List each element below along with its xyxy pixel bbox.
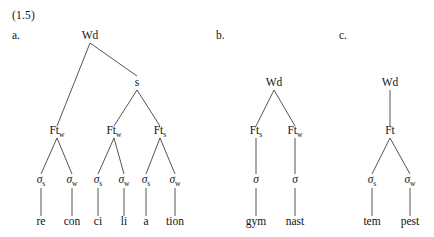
node-leaf: ci	[94, 215, 102, 227]
node-prosodic-word: Wd	[266, 76, 283, 88]
tree-branch	[256, 90, 274, 126]
node-leaf: con	[64, 215, 81, 227]
tree-branch	[57, 43, 90, 126]
node-syllable: σw	[169, 173, 181, 188]
node-syllable: σw	[118, 173, 130, 188]
tree-branch	[90, 43, 137, 76]
node-leaf: nast	[286, 215, 305, 227]
node-leaf: li	[121, 215, 127, 227]
tree-branch	[114, 90, 137, 126]
tree-diagram-canvas: WdsFtwFtwFtsσsσwσsσwσsσwreconciliationWd…	[0, 0, 434, 237]
tree-branch	[57, 138, 72, 174]
tree-branch	[114, 138, 124, 174]
node-foot: Ftw	[287, 124, 303, 139]
node-foot: Fts	[250, 124, 263, 139]
node-leaf: tem	[363, 215, 380, 227]
node-prosodic-word: Wd	[382, 76, 399, 88]
prosodic-tree-figure: (1.5) a. b. c. WdsFtwFtwFtsσsσwσsσwσsσwr…	[0, 0, 434, 237]
node-leaf: re	[37, 215, 46, 227]
node-syllable: σs	[142, 173, 151, 188]
node-syllable: σ	[253, 173, 260, 185]
tree-branch	[274, 90, 295, 126]
node-foot: Ftw	[106, 124, 122, 139]
node-leaf: gym	[246, 215, 267, 228]
node-syllable: σw	[404, 173, 416, 188]
node-prosodic-word: Wd	[82, 29, 99, 41]
node-syllable: σ	[292, 173, 299, 185]
tree-branch	[41, 138, 57, 174]
node-leaf: a	[143, 215, 148, 227]
node-syllable: σs	[37, 173, 46, 188]
node-syllable: σw	[66, 173, 78, 188]
tree-branch	[160, 138, 175, 174]
tree-b: WdFtsFtwσσgymnast	[246, 76, 305, 228]
tree-branch	[390, 138, 410, 174]
tree-branch	[98, 138, 114, 174]
tree-branch	[372, 138, 390, 174]
node-leaf: pest	[401, 215, 420, 228]
node-foot: Ftw	[49, 124, 65, 139]
node-syllable: σs	[94, 173, 103, 188]
node-foot: Ft	[385, 124, 395, 136]
tree-a: WdsFtwFtwFtsσsσwσsσwσsσwreconciliation	[37, 29, 185, 227]
node-strong-node: s	[135, 76, 140, 88]
tree-c: WdFtσsσwtempest	[363, 76, 420, 228]
node-leaf: tion	[166, 215, 184, 227]
tree-branch	[146, 138, 160, 174]
tree-branch	[137, 90, 160, 126]
node-syllable: σs	[368, 173, 377, 188]
node-foot: Fts	[154, 124, 167, 139]
